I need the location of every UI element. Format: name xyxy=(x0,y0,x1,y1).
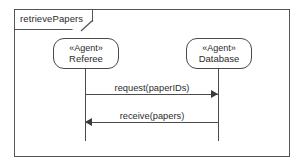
frame-label: retrievePapers xyxy=(20,13,83,24)
message-label-request: request(paperIDs) xyxy=(85,83,219,93)
interaction-frame: retrievePapers «Agent» Referee «Agent» D… xyxy=(14,9,290,157)
message-label-receive: receive(papers) xyxy=(85,111,219,121)
arrowhead-left-icon xyxy=(85,118,92,126)
message-line-request[interactable] xyxy=(85,94,218,95)
lifeline-axis-referee xyxy=(85,69,86,141)
sequence-diagram-canvas: retrievePapers «Agent» Referee «Agent» D… xyxy=(0,0,307,168)
lifeline-name-database: Database xyxy=(199,53,240,64)
lifeline-head-database[interactable]: «Agent» Database xyxy=(186,38,252,69)
message-line-receive[interactable] xyxy=(85,122,218,123)
lifeline-axis-database xyxy=(218,69,219,141)
lifeline-stereotype-referee: «Agent» xyxy=(69,43,103,54)
lifeline-name-referee: Referee xyxy=(69,53,103,64)
arrowhead-right-icon xyxy=(211,90,218,98)
lifeline-stereotype-database: «Agent» xyxy=(202,43,236,54)
lifeline-head-referee[interactable]: «Agent» Referee xyxy=(53,38,119,69)
